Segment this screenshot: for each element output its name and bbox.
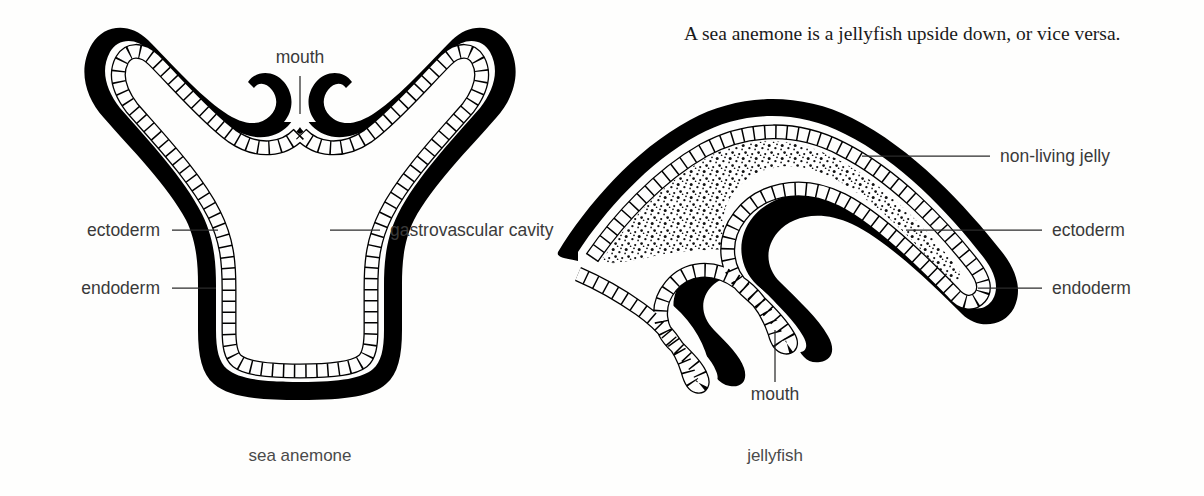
jellyfish-figure-name: jellyfish [746,446,803,465]
cnidarian-body-plan-diagram: A sea anemone is a jellyfish upside down… [0,0,1204,496]
jellyfish-ectoderm-label: ectoderm [1052,220,1125,240]
figure-caption: A sea anemone is a jellyfish upside down… [684,23,1120,44]
anemone-mouth-label: mouth [276,47,325,67]
anemone-figure-name: sea anemone [248,446,351,465]
gastrovascular-cavity-label: gastrovascular cavity [390,220,554,240]
jellyfish-mouth-label: mouth [751,384,800,404]
anemone-ectoderm-label: ectoderm [87,220,160,240]
anemone-endoderm-label: endoderm [81,278,160,298]
jellyfish-figure: non-living jelly ectoderm endoderm mouth… [558,99,1131,465]
jellyfish-endoderm-label: endoderm [1052,278,1131,298]
sea-anemone-figure: mouth ectoderm endoderm sea anemone [81,28,515,465]
jellyfish-jelly-label: non-living jelly [1000,146,1110,166]
